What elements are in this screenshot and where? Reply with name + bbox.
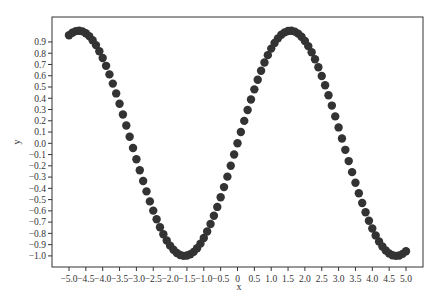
data-point	[365, 217, 373, 225]
x-tick-label: −2.0	[161, 274, 178, 284]
x-axis-label: x	[237, 281, 242, 292]
y-tick-label: 0.4	[34, 94, 46, 104]
y-tick-label: 0.9	[34, 37, 46, 47]
data-point	[142, 187, 150, 195]
data-point	[122, 121, 130, 129]
x-tick-label: −4.5	[77, 274, 94, 284]
data-point	[348, 168, 356, 176]
data-point	[105, 70, 113, 78]
y-tick-label: −0.1	[29, 150, 46, 160]
data-point	[324, 91, 332, 99]
data-point	[109, 79, 117, 87]
x-tick-label: 1.0	[265, 274, 277, 284]
x-tick-label: −1.0	[195, 274, 212, 284]
data-point	[334, 123, 342, 131]
x-tick-label: −1.5	[178, 274, 195, 284]
data-point	[254, 75, 262, 83]
data-point	[338, 134, 346, 142]
y-tick-label: 0.3	[34, 105, 46, 115]
data-point	[115, 100, 123, 108]
data-point	[227, 162, 235, 170]
data-point	[213, 203, 221, 211]
x-tick-label: 3.0	[333, 274, 345, 284]
data-point	[210, 212, 218, 220]
x-tick-label: −5.0	[60, 274, 77, 284]
x-tick-label: −3.0	[128, 274, 145, 284]
data-point	[358, 199, 366, 207]
data-point	[132, 155, 140, 163]
x-tick-label: −0.5	[212, 274, 229, 284]
y-tick-label: 0.6	[34, 71, 46, 81]
y-tick-label: −0.4	[29, 184, 46, 194]
x-tick-label: 3.5	[350, 274, 362, 284]
data-point	[402, 247, 410, 255]
data-point	[240, 117, 248, 125]
x-tick-label: 5.0	[400, 274, 412, 284]
y-tick-label: 0.2	[34, 116, 46, 126]
data-point	[206, 220, 214, 228]
data-point	[136, 166, 144, 174]
y-tick-label: −0.8	[29, 229, 46, 239]
data-point	[355, 189, 363, 197]
data-point	[146, 197, 154, 205]
y-tick-label: 0.8	[34, 49, 46, 59]
x-tick-label: 0.5	[248, 274, 260, 284]
y-tick-label: 0.1	[34, 127, 46, 137]
y-tick-label: −0.5	[29, 195, 46, 205]
x-tick-label: 2.5	[316, 274, 328, 284]
y-tick-label: 0.5	[34, 82, 46, 92]
x-tick-label: 4.0	[366, 274, 378, 284]
y-tick-label: −0.7	[29, 217, 46, 227]
data-point	[345, 157, 353, 165]
data-point	[223, 172, 231, 180]
data-point	[220, 183, 228, 191]
data-point	[230, 150, 238, 158]
data-point	[321, 81, 329, 89]
data-point	[125, 133, 133, 141]
data-point	[257, 67, 265, 75]
data-point	[216, 193, 224, 201]
data-point	[152, 215, 160, 223]
x-tick-label: 2.0	[299, 274, 311, 284]
data-point	[112, 89, 120, 97]
x-tick-label: −3.5	[111, 274, 128, 284]
data-point	[351, 179, 359, 187]
data-point	[233, 139, 241, 147]
y-axis: 0.90.80.70.60.50.40.30.20.10.0−0.1−0.2−0…	[29, 37, 52, 261]
data-point	[119, 110, 127, 118]
data-point	[99, 54, 107, 62]
data-point	[331, 112, 339, 120]
y-tick-label: −0.2	[29, 161, 46, 171]
data-point	[243, 106, 251, 114]
data-point	[129, 144, 137, 152]
sine-scatter-chart: 0.90.80.70.60.50.40.30.20.10.0−0.1−0.2−0…	[0, 0, 440, 305]
data-point	[341, 146, 349, 154]
data-point	[361, 208, 369, 216]
y-axis-label: y	[11, 140, 22, 145]
data-point	[260, 58, 268, 66]
y-tick-label: −0.9	[29, 240, 46, 250]
x-tick-label: −4.0	[94, 274, 111, 284]
x-tick-label: 4.5	[383, 274, 395, 284]
data-point	[328, 101, 336, 109]
data-point	[102, 62, 110, 70]
data-point	[139, 177, 147, 185]
y-tick-label: −1.0	[29, 251, 46, 261]
data-point	[237, 128, 245, 136]
data-point	[318, 72, 326, 80]
data-point	[203, 227, 211, 235]
data-point	[250, 85, 258, 93]
data-point	[314, 63, 322, 71]
y-tick-label: −0.6	[29, 206, 46, 216]
y-tick-label: 0.7	[34, 60, 46, 70]
x-tick-label: −2.5	[145, 274, 162, 284]
y-tick-label: −0.3	[29, 172, 46, 182]
data-point	[247, 95, 255, 103]
x-tick-label: 1.5	[282, 274, 294, 284]
y-tick-label: 0.0	[34, 139, 46, 149]
data-point	[311, 55, 319, 63]
data-point	[149, 206, 157, 214]
